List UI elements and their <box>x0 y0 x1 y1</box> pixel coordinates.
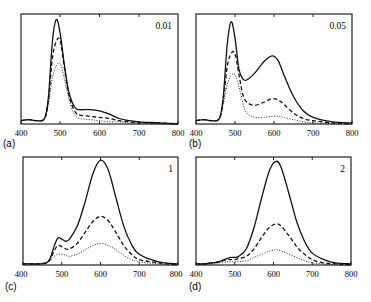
x-tick-label: 600 <box>93 128 106 138</box>
x-tick-label: 600 <box>267 269 280 279</box>
plot-frame <box>196 157 351 265</box>
x-tick-label: 400 <box>15 128 28 138</box>
x-tick-label: 600 <box>94 269 107 279</box>
x-tick-label: 600 <box>268 128 281 138</box>
chart-c-svg: 400 500 600 700 800 1 (c) <box>0 151 186 302</box>
panel-annotation: 0.05 <box>329 21 346 31</box>
series-solid-line <box>23 160 178 264</box>
series-dashed-line <box>196 51 352 124</box>
x-tick-label: 800 <box>346 128 359 138</box>
x-tick-label: 400 <box>190 269 203 279</box>
panel-label: (d) <box>189 281 201 292</box>
chart-d-svg: 400 500 600 700 800 2 (d) <box>175 151 371 302</box>
chart-b-svg: 400 500 600 700 800 0.05 (b) <box>175 0 371 151</box>
panel-annotation: 1 <box>168 164 173 174</box>
panel-label: (b) <box>189 138 201 149</box>
x-tick-label: 400 <box>190 128 203 138</box>
panel-label: (c) <box>5 281 17 292</box>
x-tick-label: 500 <box>228 269 241 279</box>
panel-annotation: 0.01 <box>155 21 172 31</box>
x-tick-label: 400 <box>15 269 28 279</box>
chart-a-svg: 400 500 600 700 800 0.01 (a) <box>0 0 186 151</box>
series-dotted-line <box>21 63 178 124</box>
panel-d: 400 500 600 700 800 2 (d) <box>175 151 371 302</box>
x-tick-label: 800 <box>345 269 358 279</box>
series-solid-line <box>21 19 178 124</box>
x-tick-label: 500 <box>229 128 242 138</box>
x-tick-label: 500 <box>55 269 68 279</box>
panel-b: 400 500 600 700 800 0.05 (b) <box>175 0 371 151</box>
series-dashed-line <box>196 224 351 265</box>
series-dashed-line <box>23 216 178 265</box>
x-tick-label: 500 <box>54 128 67 138</box>
panel-label: (a) <box>3 138 15 149</box>
series-solid-line <box>196 161 351 264</box>
panel-c: 400 500 600 700 800 1 (c) <box>0 151 186 302</box>
x-tick-label: 700 <box>306 269 319 279</box>
series-solid-line <box>196 22 352 123</box>
x-tick-label: 700 <box>307 128 320 138</box>
panel-a: 400 500 600 700 800 0.01 (a) <box>0 0 186 151</box>
plot-frame <box>23 157 178 265</box>
x-tick-label: 700 <box>133 269 146 279</box>
x-ticks <box>196 157 351 265</box>
panel-annotation: 2 <box>340 164 345 174</box>
x-tick-label: 700 <box>133 128 146 138</box>
x-ticks <box>23 157 178 265</box>
